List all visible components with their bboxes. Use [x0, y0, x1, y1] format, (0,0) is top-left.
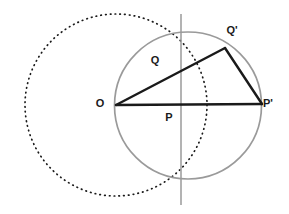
label-p-prime: P' [263, 97, 273, 109]
label-p: P [165, 111, 172, 123]
geometry-figure: O Q Q' P P' [0, 0, 289, 214]
label-o: O [96, 97, 105, 109]
label-q: Q [151, 54, 160, 66]
label-q-prime: Q' [226, 24, 238, 36]
diagram-canvas: O Q Q' P P' [0, 0, 289, 214]
segment-p-prime-to-o [116, 104, 262, 105]
